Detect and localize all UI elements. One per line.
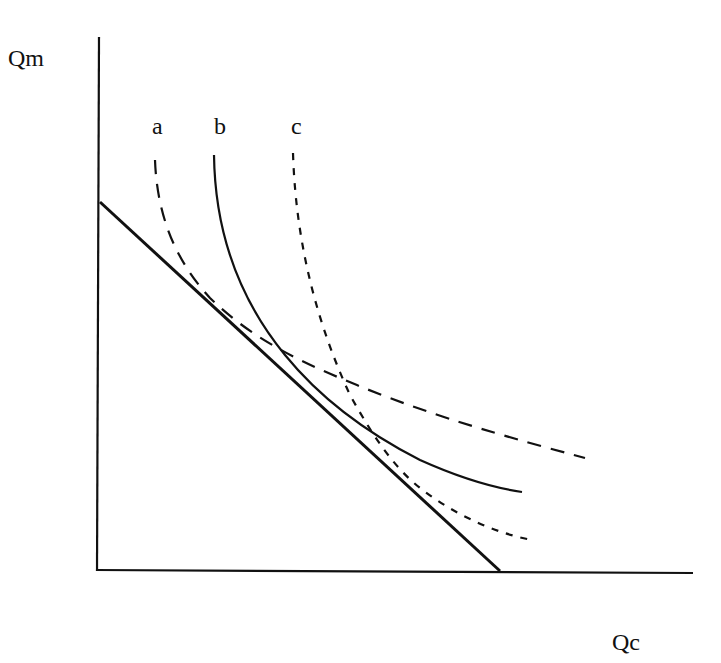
curve-c-label: c (291, 113, 302, 139)
curve-a-label: a (152, 113, 163, 139)
indifference-curve-a (155, 160, 585, 458)
x-axis (96, 570, 693, 573)
indifference-curve-b (214, 155, 522, 492)
y-axis-label: Qm (8, 45, 44, 71)
axes (96, 37, 693, 573)
x-axis-label: Qc (612, 629, 640, 655)
y-axis (97, 37, 99, 571)
indifference-curve-c (293, 153, 532, 540)
indifference-curve-diagram: Qm Qc a b c (0, 0, 721, 663)
curve-b-label: b (214, 113, 226, 139)
budget-line (100, 202, 500, 571)
